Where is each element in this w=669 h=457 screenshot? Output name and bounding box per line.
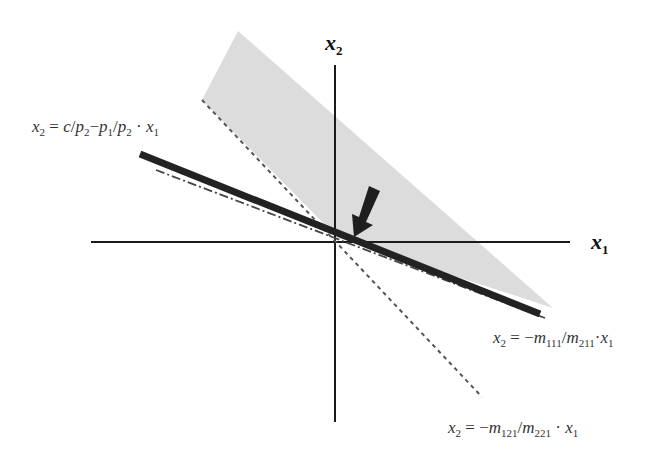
line-m121-label: x2 = −m121/m221 · x1 <box>448 418 578 438</box>
x1-axis-label: x1 <box>591 229 609 255</box>
shaded-feasible-region <box>202 31 553 308</box>
diagram-canvas <box>0 0 669 457</box>
line-m111-label: x2 = −m111/m211·x1 <box>493 328 614 348</box>
x2-axis-label: x2 <box>325 30 343 56</box>
budget-line-label: x2 = c/p2−p1/p2 · x1 <box>32 117 159 137</box>
